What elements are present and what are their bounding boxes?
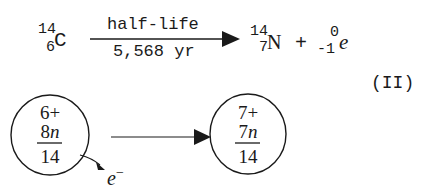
carbon-mass-total: 14 <box>25 147 75 166</box>
nitrogen-neutrons-value: 7n <box>239 121 258 142</box>
nitrogen-protons: 7+ <box>223 103 273 122</box>
nitrogen-neutrons: 7n <box>223 122 273 141</box>
emitted-atomic-number: -1 <box>317 42 335 57</box>
product-mass-number: 14 <box>250 24 268 39</box>
transformation-arrow <box>111 129 211 145</box>
emitted-electron-label: e− <box>107 165 124 190</box>
neutron-symbol: n <box>50 121 60 142</box>
emitted-mass-number: 0 <box>330 25 339 40</box>
neutron-symbol: n <box>248 121 258 142</box>
carbon-protons: 6+ <box>25 103 75 122</box>
electron-emission-arrow <box>80 155 105 170</box>
nitrogen-mass-total: 14 <box>223 147 273 166</box>
product-symbol: N <box>267 32 281 52</box>
emitted-symbol: e <box>339 32 348 53</box>
product-nuclide: 14 7 N <box>250 30 290 60</box>
carbon-neutrons-value: 8n <box>41 121 60 142</box>
reactant-symbol: C <box>54 30 67 51</box>
plus-sign: + <box>295 32 307 55</box>
arrow-label-below: 5,568 yr <box>113 42 195 61</box>
electron-charge: − <box>116 165 124 180</box>
arrow-label-above: half-life <box>107 15 199 34</box>
equation-number: (II) <box>371 73 414 93</box>
reactant-nuclide: 14 6 C <box>38 28 78 58</box>
carbon-neutrons: 8n <box>25 122 75 141</box>
electron-symbol: e <box>107 167 116 189</box>
emitted-particle: 0 -1 e <box>318 30 358 60</box>
